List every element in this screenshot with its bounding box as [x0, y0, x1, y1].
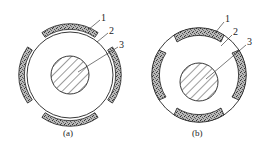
diagram-canvas: 1 2 3 (a) 1 2 3 (b): [0, 0, 271, 154]
label-1-a: 1: [101, 12, 106, 23]
leader-1-a: [88, 20, 100, 30]
figure-a: 1 2 3 (a): [19, 12, 124, 138]
label-3-b: 3: [247, 36, 252, 47]
label-3-a: 3: [119, 39, 124, 50]
label-1-b: 1: [225, 13, 230, 24]
label-2-b: 2: [233, 26, 238, 37]
leader-2-a: [97, 33, 108, 42]
shaft-b: [180, 63, 218, 101]
shaft-a: [51, 56, 89, 94]
label-2-a: 2: [109, 25, 114, 36]
caption-a: (a): [63, 128, 73, 138]
figure-b: 1 2 3 (b): [152, 13, 252, 138]
caption-b: (b): [192, 128, 203, 138]
leader-1-b: [215, 22, 224, 33]
